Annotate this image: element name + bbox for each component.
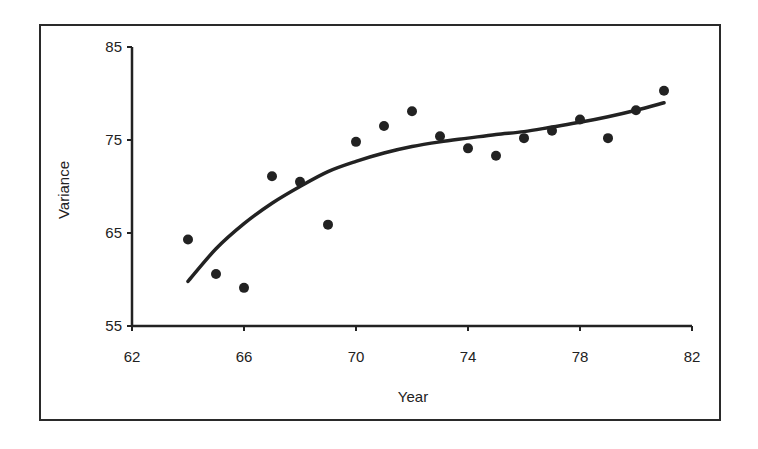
tick-labels: 55657585626670747882 bbox=[105, 38, 700, 365]
data-point bbox=[351, 137, 361, 147]
data-point bbox=[295, 177, 305, 187]
x-tick-label: 70 bbox=[348, 348, 365, 365]
y-tick-label: 85 bbox=[105, 38, 122, 55]
scatter-chart: 55657585626670747882 Year Variance bbox=[0, 0, 758, 449]
data-point bbox=[379, 121, 389, 131]
data-point bbox=[519, 133, 529, 143]
data-point bbox=[239, 283, 249, 293]
x-axis-title: Year bbox=[398, 388, 428, 405]
data-point bbox=[547, 126, 557, 136]
data-point bbox=[323, 220, 333, 230]
y-tick-label: 75 bbox=[105, 131, 122, 148]
data-point bbox=[631, 105, 641, 115]
x-tick-label: 74 bbox=[460, 348, 477, 365]
data-point bbox=[183, 235, 193, 245]
data-point bbox=[407, 106, 417, 116]
data-point bbox=[463, 143, 473, 153]
data-point bbox=[491, 151, 501, 161]
data-point bbox=[267, 171, 277, 181]
data-point bbox=[659, 86, 669, 96]
data-point bbox=[211, 269, 221, 279]
axes bbox=[127, 47, 692, 331]
trend-line bbox=[188, 103, 664, 282]
y-axis-title: Variance bbox=[55, 161, 72, 219]
data-point bbox=[603, 133, 613, 143]
data-points bbox=[183, 86, 669, 293]
y-tick-label: 55 bbox=[105, 317, 122, 334]
x-tick-label: 66 bbox=[236, 348, 253, 365]
data-point bbox=[575, 115, 585, 125]
data-point bbox=[435, 131, 445, 141]
fitted-curve bbox=[188, 103, 664, 282]
y-tick-label: 65 bbox=[105, 224, 122, 241]
x-tick-label: 78 bbox=[572, 348, 589, 365]
x-tick-label: 82 bbox=[684, 348, 701, 365]
x-tick-label: 62 bbox=[124, 348, 141, 365]
